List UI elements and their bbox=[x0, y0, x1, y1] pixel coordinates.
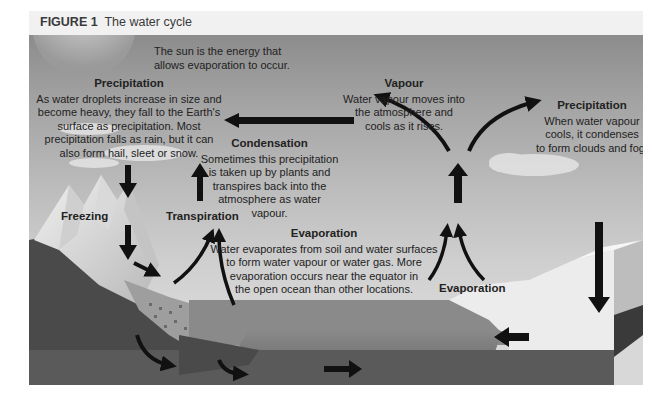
precipitation-right-title: Precipitation bbox=[532, 99, 643, 113]
water-cycle-diagram: The sun is the energy that allows evapor… bbox=[29, 35, 643, 385]
ocean-floor bbox=[29, 350, 614, 385]
sun-annotation: The sun is the energy that allows evapor… bbox=[154, 45, 329, 72]
evaporation-center-annotation: Evaporation Water evaporates from soil a… bbox=[209, 227, 439, 297]
transpiration-label: Transpiration bbox=[166, 210, 239, 222]
vapour-annotation: Vapour Water vapour moves into the atmos… bbox=[334, 77, 474, 133]
condensation-title: Condensation bbox=[197, 137, 342, 151]
precipitation-left-title: Precipitation bbox=[29, 77, 229, 91]
arrow-down-icon bbox=[119, 165, 137, 198]
freezing-label: Freezing bbox=[61, 210, 108, 222]
sun-icon bbox=[32, 35, 136, 77]
precipitation-right-annotation: Precipitation When water vapour cools, i… bbox=[532, 99, 643, 155]
arrow-up-icon bbox=[448, 163, 468, 203]
arrow-curve-icon bbox=[174, 235, 211, 283]
arrow-curve-icon bbox=[459, 230, 484, 280]
figure-label: FIGURE 1 bbox=[40, 15, 98, 29]
arrow-curve-icon bbox=[469, 102, 534, 151]
condensation-annotation: Condensation Sometimes this precipitatio… bbox=[197, 137, 342, 220]
figure-caption: FIGURE 1 The water cycle bbox=[40, 15, 192, 29]
evaporation-center-title: Evaporation bbox=[209, 227, 439, 241]
vapour-title: Vapour bbox=[334, 77, 474, 91]
figure-title: The water cycle bbox=[104, 15, 192, 29]
evaporation-right-label: Evaporation bbox=[439, 282, 505, 294]
